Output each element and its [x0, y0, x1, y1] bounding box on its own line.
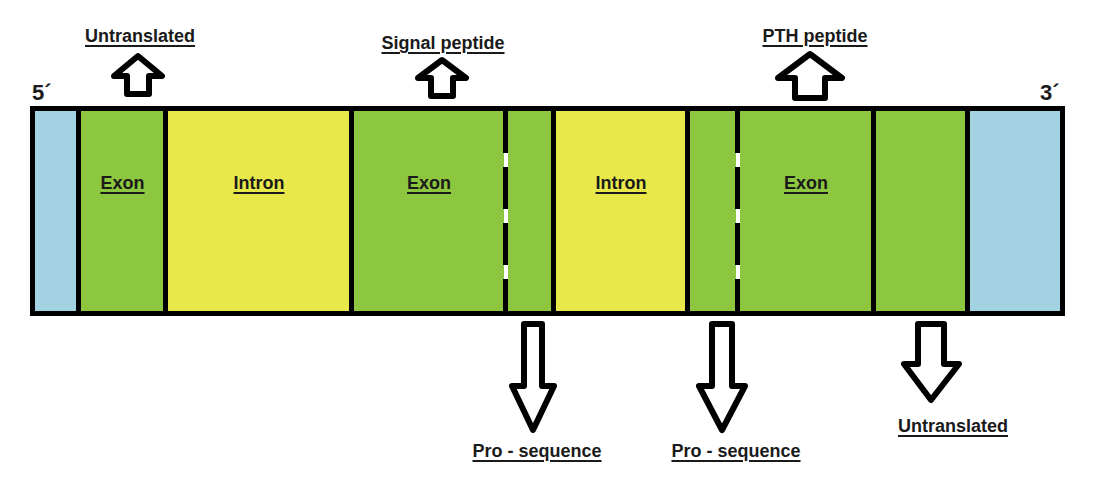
segment-exon-3-pro [690, 111, 736, 311]
up-arrow-icon [774, 50, 846, 102]
down-arrow-icon [508, 320, 558, 434]
segment-intron-2: Intron [556, 111, 686, 311]
segment-3-utr [970, 111, 1060, 311]
segment-exon-untranslated [876, 111, 966, 311]
intron-2-label: Intron [596, 173, 647, 194]
up-arrow-icon [414, 56, 470, 100]
down-arrow-icon [900, 320, 964, 404]
segment-exon-1: Exon [81, 111, 164, 311]
bottom-label-pro-sequence-2: Pro - sequence [671, 441, 800, 462]
top-label-untranslated: Untranslated [85, 26, 195, 47]
top-label-signal-peptide: Signal peptide [381, 33, 504, 54]
gene-bar: Exon Intron Exon Intron Exon [30, 106, 1065, 316]
intron-1-label: Intron [234, 173, 285, 194]
five-prime-label: 5´ [32, 80, 52, 106]
segment-exon-2-pro [508, 111, 552, 311]
segment-5-utr [35, 111, 78, 311]
exon-1-label: Exon [100, 173, 144, 194]
bottom-label-pro-sequence-1: Pro - sequence [472, 441, 601, 462]
segment-exon-3: Exon [740, 111, 872, 311]
up-arrow-icon [110, 52, 166, 98]
down-arrow-icon [695, 320, 749, 434]
exon-3-label: Exon [784, 173, 828, 194]
top-label-pth-peptide: PTH peptide [762, 26, 867, 47]
bottom-label-untranslated: Untranslated [898, 416, 1008, 437]
segment-intron-1: Intron [168, 111, 350, 311]
three-prime-label: 3´ [1040, 80, 1060, 106]
segment-exon-2: Exon [354, 111, 504, 311]
exon-2-label: Exon [407, 173, 451, 194]
